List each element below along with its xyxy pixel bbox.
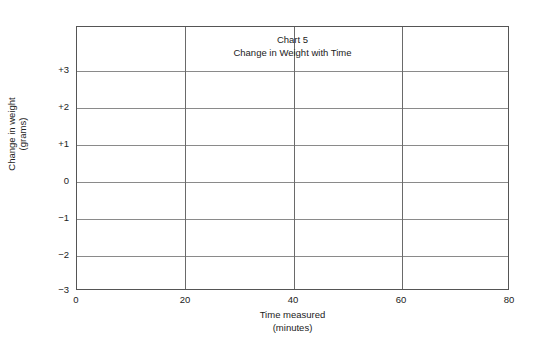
gridline-horizontal bbox=[77, 145, 508, 146]
y-tick-label: −1 bbox=[12, 213, 76, 223]
chart-title: Chart 5 Change in Weight with Time bbox=[77, 33, 508, 59]
plot-area: Chart 5 Change in Weight with Time bbox=[76, 26, 509, 290]
x-tick-label: 0 bbox=[56, 294, 96, 305]
x-tick-label: 20 bbox=[165, 294, 205, 305]
gridline-horizontal bbox=[77, 219, 508, 220]
gridline-vertical bbox=[185, 27, 186, 289]
chart-title-main: Chart 5 bbox=[77, 33, 508, 46]
chart-figure: Chart 5 Change in Weight with Time +3 +2… bbox=[0, 0, 547, 354]
gridline-horizontal bbox=[77, 108, 508, 109]
gridline-vertical bbox=[294, 27, 295, 289]
x-axis-title: Time measured (minutes) bbox=[76, 308, 509, 334]
y-axis-title-units: (grams) bbox=[17, 74, 28, 194]
y-axis-title-text: Change in weight bbox=[6, 74, 17, 194]
chart-title-subtitle: Change in Weight with Time bbox=[77, 46, 508, 59]
y-tick-label: −2 bbox=[12, 250, 76, 260]
x-axis-tick-labels: 0 20 40 60 80 bbox=[76, 294, 509, 308]
x-axis-title-text: Time measured bbox=[76, 308, 509, 321]
gridline-vertical bbox=[402, 27, 403, 289]
gridline-horizontal bbox=[77, 71, 508, 72]
x-tick-label: 60 bbox=[381, 294, 421, 305]
gridline-horizontal bbox=[77, 182, 508, 183]
x-tick-label: 80 bbox=[489, 294, 529, 305]
gridline-horizontal bbox=[77, 256, 508, 257]
y-axis-title: Change in weight (grams) bbox=[6, 74, 28, 194]
x-axis-title-units: (minutes) bbox=[76, 321, 509, 334]
x-tick-label: 40 bbox=[273, 294, 313, 305]
